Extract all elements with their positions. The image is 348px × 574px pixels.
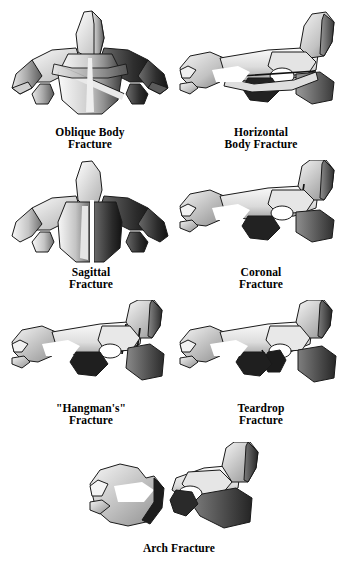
illustration-hangmans (8, 300, 174, 402)
illustration-sagittal (8, 160, 174, 266)
panel-horizontal-body: Horizontal Body Fracture (176, 8, 346, 151)
illustration-coronal (176, 160, 346, 266)
panel-sagittal: Sagittal Fracture (8, 160, 174, 291)
panel-caption: Horizontal Body Fracture (225, 127, 298, 151)
illustration-horizontal-body (176, 8, 346, 126)
panel-caption: Oblique Body Fracture (55, 127, 124, 151)
panel-caption: Sagittal Fracture (69, 267, 113, 291)
panel-oblique-body: Oblique Body Fracture (6, 8, 174, 151)
panel-caption: Teardrop Fracture (238, 403, 285, 427)
panel-hangmans: "Hangman's" Fracture (8, 300, 174, 427)
illustration-teardrop (176, 300, 346, 402)
panel-coronal: Coronal Fracture (176, 160, 346, 291)
fracture-classification-figure: Oblique Body Fracture (0, 0, 348, 574)
panel-teardrop: Teardrop Fracture (176, 300, 346, 427)
bottom-cut-caption (0, 565, 348, 574)
panel-caption: Arch Fracture (143, 543, 215, 555)
panel-caption: "Hangman's" Fracture (56, 403, 126, 427)
panel-arch: Arch Fracture (84, 442, 274, 555)
illustration-arch (84, 442, 274, 542)
panel-caption: Coronal Fracture (239, 267, 283, 291)
illustration-oblique-body (6, 8, 174, 126)
